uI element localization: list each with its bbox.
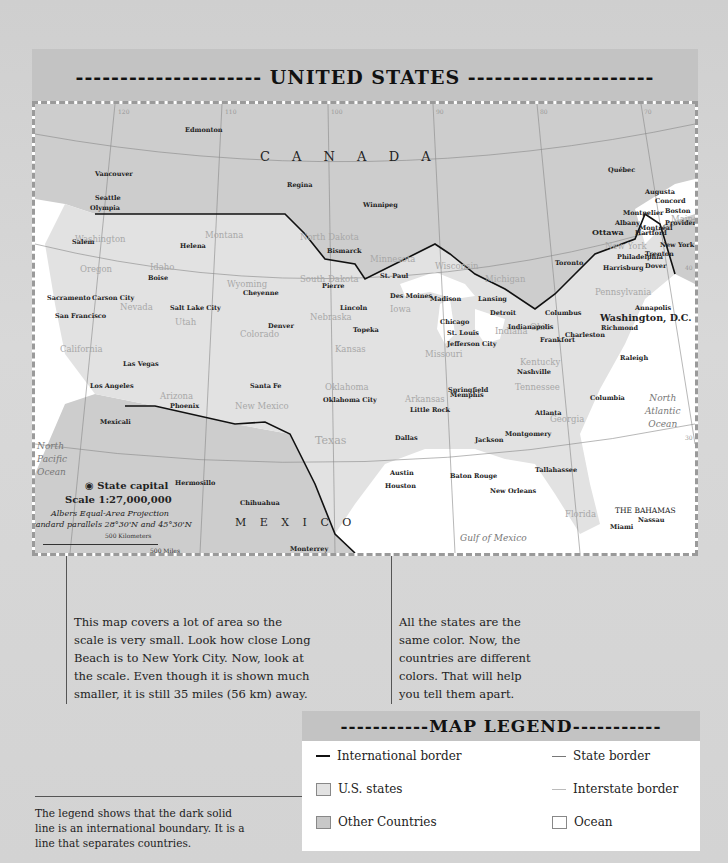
state-label: Arizona — [160, 391, 193, 401]
legend-note: The legend shows that the dark solid lin… — [35, 806, 250, 851]
tick-120: 120 — [118, 108, 129, 115]
city-label: Raleigh — [620, 354, 648, 362]
city-label: Columbus — [545, 309, 582, 317]
label-mexico: M E X I C O — [235, 516, 356, 529]
city-label: Denver — [268, 322, 294, 330]
callout-line-color — [391, 556, 392, 704]
city-label: Vancouver — [95, 170, 133, 178]
key-parallels: Standard parallels 28°30'N and 45°30'N — [32, 520, 192, 529]
city-label: Houston — [385, 482, 416, 490]
state-border-line-icon — [552, 756, 566, 757]
legend-label: Ocean — [574, 815, 613, 829]
state-label: Oklahoma — [325, 382, 369, 392]
key-state-capital-text: State capital — [97, 480, 168, 491]
us-map: 120 110 100 90 80 70 40 30 C A N A D A M… — [32, 101, 698, 556]
legend-state-border: State border — [552, 749, 650, 763]
state-label: North Dakota — [300, 232, 359, 242]
city-label: Annapolis — [635, 304, 671, 312]
city-label: Topeka — [353, 326, 379, 334]
tick-lat-40: 40 — [685, 264, 693, 271]
label-gulf: Gulf of Mexico — [460, 532, 527, 545]
city-label: Miami — [610, 523, 633, 531]
state-label: California — [60, 344, 103, 354]
city-label: Harrisburg — [603, 264, 644, 272]
city-label: St. Louis — [447, 329, 479, 337]
city-label: Ottawa — [592, 227, 624, 237]
city-label: New York — [660, 241, 694, 249]
city-label: Cheyenne — [243, 289, 279, 297]
city-label: Chicago — [440, 318, 469, 326]
city-label: Chihuahua — [240, 499, 280, 507]
international-border-line-icon — [316, 755, 330, 757]
city-label: Hermosillo — [175, 479, 215, 487]
city-label: Dover — [645, 262, 666, 270]
city-label: Jefferson City — [447, 340, 497, 348]
label-washington-dc: Washington, D.C. — [600, 312, 692, 323]
scale-note: This map covers a lot of area so the sca… — [74, 613, 314, 703]
city-label: New Orleans — [490, 487, 536, 495]
city-label: Seattle — [95, 194, 121, 202]
city-label: Lansing — [478, 295, 507, 303]
key-projection: Albers Equal-Area Projection — [51, 509, 169, 518]
city-label: Québec — [608, 166, 635, 174]
city-label: Mexicali — [100, 418, 131, 426]
city-label: Hartford — [635, 229, 667, 237]
city-label: Richmond — [601, 324, 638, 332]
state-label: Arkansas — [405, 394, 445, 404]
city-label: Memphis — [450, 391, 484, 399]
key-state-capital: ◉ State capital — [85, 480, 168, 491]
tick-100: 100 — [331, 108, 342, 115]
tick-80: 80 — [540, 108, 548, 115]
city-label: Tallahassee — [535, 466, 577, 474]
map-legend: International border State border U.S. s… — [302, 741, 700, 851]
city-label: Olympia — [90, 204, 120, 212]
tick-110: 110 — [225, 108, 236, 115]
state-label: Florida — [565, 509, 596, 519]
city-label: Jackson — [475, 436, 503, 444]
city-label: Little Rock — [410, 406, 450, 414]
legend-header: -----------MAP LEGEND----------- — [302, 711, 700, 741]
key-km-label: 500 Kilometers — [105, 532, 151, 539]
color-note: All the states are the same color. Now, … — [399, 613, 539, 703]
legend-label: Other Countries — [338, 815, 437, 829]
city-label: Providence — [665, 219, 698, 227]
city-label: Boise — [148, 274, 168, 282]
state-label: Kansas — [335, 344, 366, 354]
city-label: Toronto — [555, 259, 583, 267]
us-states-swatch-icon — [316, 783, 331, 796]
city-label: Montpelier — [623, 209, 663, 217]
ocean-swatch-icon — [552, 816, 567, 829]
state-label: Kentucky — [520, 357, 560, 367]
city-label: Atlanta — [535, 409, 562, 417]
city-label: Pierre — [322, 282, 344, 290]
city-label: Detroit — [490, 309, 516, 317]
state-label: Texas — [315, 434, 346, 447]
title-bar: --------------------- UNITED STATES ----… — [32, 49, 698, 103]
state-label: Michigan — [485, 274, 525, 284]
city-label: Augusta — [645, 188, 675, 196]
legend-label: Interstate border — [573, 782, 678, 796]
legend-label: International border — [337, 749, 462, 763]
state-label: Missouri — [425, 349, 463, 359]
city-label: Winnipeg — [363, 201, 398, 209]
state-label: Oregon — [80, 264, 112, 274]
state-label: New York — [605, 241, 647, 251]
city-label: Baton Rouge — [450, 472, 497, 480]
city-label: Madison — [430, 295, 461, 303]
state-label: Iowa — [390, 304, 411, 314]
city-label: Las Vegas — [123, 360, 159, 368]
city-label: Charleston — [565, 331, 605, 339]
city-label: Los Angeles — [90, 382, 134, 390]
city-label: Indianapolis — [508, 323, 553, 331]
city-label: Salt Lake City — [170, 304, 221, 312]
city-label: Des Moines — [390, 292, 432, 300]
city-label: Concord — [655, 197, 686, 205]
city-label: Regina — [287, 181, 313, 189]
city-label: Nashville — [517, 368, 551, 376]
city-label: St. Paul — [380, 272, 408, 280]
state-label: Colorado — [240, 329, 279, 339]
city-label: Oklahoma City — [323, 396, 377, 404]
state-label: Utah — [175, 317, 196, 327]
city-label: Montgomery — [505, 430, 551, 438]
city-label: Santa Fe — [250, 382, 282, 390]
